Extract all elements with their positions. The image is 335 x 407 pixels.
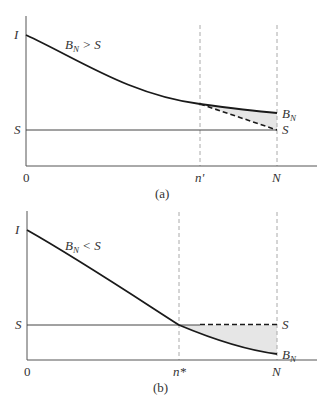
end-B: B [282, 106, 290, 121]
panel-b-y-label-S: S [15, 318, 22, 331]
end-B-sub: N [290, 113, 296, 123]
panel-b-annotation: BN < S [65, 239, 101, 255]
panel-b-x-label-N: N [272, 365, 281, 378]
annotation-relation: > S [79, 37, 101, 52]
panel-a-caption: (a) [155, 187, 169, 200]
panel-a-y-label-S: S [14, 123, 21, 136]
panel-a-end-label-S: S [282, 123, 289, 136]
panel-b-x-label-n-star: n* [173, 365, 186, 378]
annotation-relation: < S [79, 238, 101, 253]
panel-a-annotation: BN > S [65, 38, 101, 54]
panel-b-y-label-I: I [15, 223, 19, 236]
panel-a-end-label-BN: BN [282, 107, 296, 123]
panel-b-x-label-0: 0 [24, 365, 31, 378]
panel-a-x-label-N: N [272, 171, 281, 184]
end-B-sub: N [290, 354, 296, 364]
diagram-canvas [0, 0, 335, 407]
panel-b [27, 211, 317, 360]
panel-b-end-label-BN: BN [282, 348, 296, 364]
end-B: B [282, 347, 290, 362]
panel-a-y-label-I: I [14, 28, 18, 41]
annotation-B: B [65, 37, 73, 52]
panel-b-shaded-region [179, 325, 277, 354]
panel-a-BN-curve [26, 35, 277, 113]
panel-b-end-label-S: S [282, 318, 289, 331]
panel-b-caption: (b) [153, 381, 168, 394]
panel-a-x-label-0: 0 [23, 171, 30, 184]
panel-a-x-label-n-prime: n' [195, 171, 204, 184]
annotation-B: B [65, 238, 73, 253]
